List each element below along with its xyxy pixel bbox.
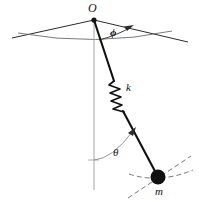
ceiling-line-left bbox=[12, 20, 94, 38]
figure-canvas bbox=[0, 0, 199, 202]
point-mass bbox=[151, 170, 166, 185]
pivot-point bbox=[91, 17, 96, 22]
mass-label: m bbox=[155, 186, 163, 197]
pendulum-rod-lower bbox=[123, 111, 157, 175]
pivot-label: O bbox=[88, 2, 97, 14]
ceiling-arc bbox=[18, 31, 172, 40]
spring-coil bbox=[109, 81, 124, 112]
azimuth-angle-label: ϕ bbox=[110, 27, 116, 38]
spring-constant-label: k bbox=[126, 82, 131, 93]
polar-angle-label: θ bbox=[113, 147, 118, 158]
pendulum-figure: O ϕ k θ m bbox=[0, 0, 199, 202]
